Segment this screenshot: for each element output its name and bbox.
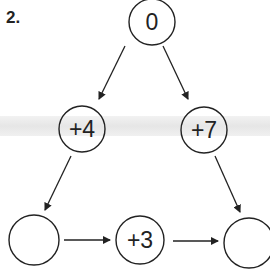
arrow-right-down (215, 156, 240, 212)
node-bottom-right[interactable] (224, 218, 270, 268)
arrow-top-to-left (99, 46, 125, 99)
arrow-left-down (45, 156, 71, 210)
node-bottom-left[interactable] (9, 215, 59, 265)
node-bottom-mid-label: +3 (127, 227, 153, 253)
node-top-label: 0 (146, 9, 159, 35)
number-diagram: 0 +4 +7 +3 (0, 0, 270, 272)
node-mid-right-label: +7 (191, 117, 217, 143)
arrow-top-to-right (163, 46, 188, 99)
node-mid-left-label: +4 (69, 116, 95, 142)
